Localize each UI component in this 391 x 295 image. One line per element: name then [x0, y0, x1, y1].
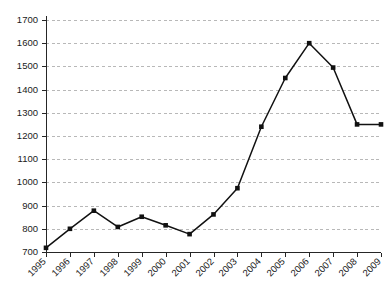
xtick-label: 2002 — [193, 256, 216, 279]
data-point-marker — [139, 214, 144, 219]
ytick-label: 900 — [22, 200, 38, 211]
data-point-marker — [211, 212, 216, 217]
ytick-label: 1400 — [17, 84, 38, 95]
xtick-label: 2005 — [264, 256, 287, 279]
data-point-marker — [379, 122, 384, 127]
data-point-marker — [187, 232, 192, 237]
gridlines-group — [46, 21, 381, 253]
data-point-marker — [283, 76, 288, 81]
data-markers-group — [44, 41, 384, 250]
xtick-label: 1996 — [49, 256, 72, 279]
xtick-label: 1995 — [25, 256, 48, 279]
xtick-label: 2007 — [312, 256, 335, 279]
ytick-label: 800 — [22, 223, 38, 234]
data-point-marker — [307, 41, 312, 46]
ytick-label: 1700 — [17, 14, 38, 25]
xtick-label: 2000 — [145, 256, 168, 279]
ytick-label: 1200 — [17, 130, 38, 141]
line-chart: 7008009001000110012001300140015001600170… — [0, 0, 391, 295]
ytick-labels-group: 7008009001000110012001300140015001600170… — [17, 14, 38, 257]
ytick-label: 1500 — [17, 60, 38, 71]
data-point-marker — [44, 246, 49, 251]
data-point-marker — [331, 65, 336, 70]
data-point-marker — [92, 208, 97, 213]
xtick-label: 2009 — [360, 256, 383, 279]
data-point-marker — [115, 225, 120, 230]
data-series-line — [46, 43, 381, 248]
xtick-label: 1997 — [73, 256, 96, 279]
data-point-marker — [163, 223, 168, 228]
ytick-label: 1100 — [18, 153, 38, 164]
data-point-marker — [235, 186, 240, 191]
xtick-label: 1999 — [121, 256, 144, 279]
data-point-marker — [68, 227, 73, 232]
ytick-label: 1600 — [17, 37, 38, 48]
ytick-label: 1000 — [17, 176, 38, 187]
chart-canvas: 7008009001000110012001300140015001600170… — [0, 0, 391, 295]
xtick-label: 2006 — [288, 256, 311, 279]
ytick-label: 1300 — [17, 107, 38, 118]
data-point-marker — [259, 124, 264, 129]
xtick-label: 2004 — [240, 256, 263, 279]
ytick-label: 700 — [22, 246, 38, 257]
data-line-group — [46, 43, 381, 248]
xtick-label: 2003 — [216, 256, 239, 279]
axes-group — [47, 16, 382, 253]
data-point-marker — [355, 122, 360, 127]
xtick-labels-group: 1995199619971998199920002001200220032004… — [25, 256, 383, 279]
xtick-label: 2008 — [336, 256, 359, 279]
xtick-label: 2001 — [169, 256, 192, 279]
xtick-label: 1998 — [97, 256, 120, 279]
